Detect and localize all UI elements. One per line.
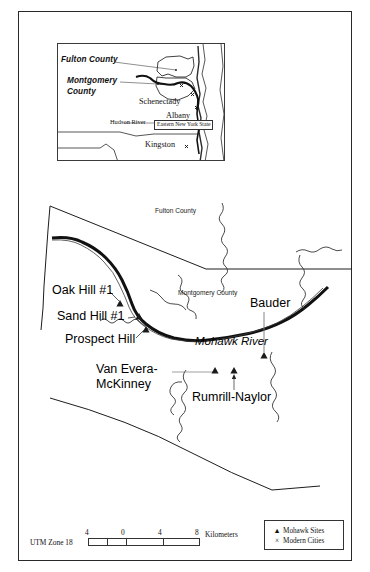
legend-label-modern-cities: Modern Cities <box>283 537 324 545</box>
main-label-sand-hill: Sand Hill #1 <box>57 310 124 323</box>
inset-label-hudson-river: Hudson River <box>110 119 146 125</box>
utm-zone-label: UTM Zone 18 <box>30 538 73 547</box>
main-label-van-evera: Van Evera- <box>96 363 158 376</box>
legend-label-mohawk-sites: Mohawk Sites <box>283 527 324 535</box>
cross-icon: × <box>271 537 283 545</box>
inset-label-county: County <box>67 88 96 96</box>
legend-row-mohawk-sites: ▲Mohawk Sites <box>271 527 324 535</box>
main-label-fulton-county: Fulton County <box>155 208 196 215</box>
main-label-prospect-hill: Prospect Hill <box>65 333 135 346</box>
main-label-montgomery-county: Montgomery County <box>178 290 237 297</box>
map-figure: Fulton County Montgomery County Schenect… <box>0 0 370 572</box>
inset-label-albany: Albany <box>166 112 190 120</box>
scale-tick-1: 0 <box>121 528 125 537</box>
map-legend: ▲Mohawk Sites ×Modern Cities <box>264 520 344 550</box>
scale-bar <box>88 538 200 546</box>
scale-unit-label: Kilometers <box>205 530 238 539</box>
inset-label-schenectady: Schenectady <box>139 98 180 106</box>
main-label-rumrill-naylor: Rumrill-Naylor <box>192 391 271 404</box>
scale-tick-0: 4 <box>85 528 89 537</box>
inset-title-box: Eastern New York State <box>154 120 213 130</box>
main-label-oak-hill: Oak Hill #1 <box>52 284 113 297</box>
legend-row-modern-cities: ×Modern Cities <box>271 537 324 545</box>
main-label-mckinney: McKinney <box>96 378 151 391</box>
inset-fulton-county-outline <box>157 56 194 77</box>
main-label-bauder: Bauder <box>250 297 290 310</box>
scale-tick-3: 8 <box>195 528 199 537</box>
inset-map: Fulton County Montgomery County Schenect… <box>57 43 225 161</box>
inset-label-fulton-county: Fulton County <box>61 56 118 64</box>
main-label-mohawk-river: Mohawk River <box>195 336 268 348</box>
inset-label-kingston: Kingston <box>145 141 175 149</box>
inset-label-montgomery: Montgomery <box>67 77 117 85</box>
triangle-icon: ▲ <box>271 527 283 535</box>
scale-tick-2: 4 <box>158 528 162 537</box>
